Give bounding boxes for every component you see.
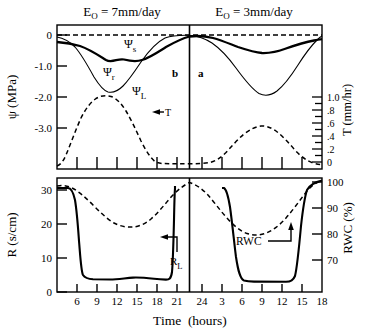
annotation-psi-s-sub: s <box>133 44 137 54</box>
xtick-4: 18 <box>152 295 164 307</box>
xtick-10: 12 <box>277 295 288 307</box>
title-right-E: E <box>215 4 223 19</box>
top-panel: 0 -1.0 -2.0 -3.0 ψ (MPa) 1.0 .8 .6 .4 .2… <box>4 25 354 169</box>
panel-label-b: b <box>172 67 178 79</box>
xtick-2: 12 <box>112 295 123 307</box>
annotation-psi-r-sub: r <box>112 72 115 82</box>
svg-text:EO = 3mm/day: EO = 3mm/day <box>215 4 293 21</box>
x-label-part1: Time <box>153 313 181 328</box>
xtick-8: 6 <box>239 295 245 307</box>
transpiration-axis-ticks <box>312 97 322 162</box>
x-axis-tick-labels: 6 9 12 15 18 21 24 3 6 9 12 15 18 <box>74 295 328 307</box>
t-tick-08: .8 <box>327 105 335 116</box>
xtick-0: 6 <box>74 295 80 307</box>
t-tick-1: 1.0 <box>327 92 340 103</box>
annotation-psi-r: Ψr <box>103 65 115 82</box>
panel-title-right: EO = 3mm/day <box>215 4 293 21</box>
title-left-rest: = 7mm/day <box>98 4 161 19</box>
rwc-axis-ticks <box>312 182 322 260</box>
rwc-tick-90: 90 <box>327 202 339 214</box>
rwc-axis-label: RWC (%) <box>340 202 355 254</box>
rwc-tick-80: 80 <box>327 228 339 240</box>
annotation-leaf-resistance: RL <box>160 234 183 270</box>
annotation-transpiration: T <box>152 107 171 118</box>
r-tick-10: 10 <box>41 252 53 264</box>
panel-title-left: EO = 7mm/day <box>83 4 161 21</box>
x-axis-label: Time (hours) <box>153 313 227 328</box>
t-tick-0: 0 <box>327 157 332 168</box>
xtick-1: 9 <box>94 295 100 307</box>
t-tick-02: .2 <box>327 144 335 155</box>
t-tick-06: .6 <box>327 118 335 129</box>
scientific-figure: EO = 7mm/day EO = 3mm/day 0 -1.0 -2.0 -3… <box>0 0 365 334</box>
resistance-axis-ticks <box>57 190 67 292</box>
r-tick-0: 0 <box>47 286 53 298</box>
resistance-axis-label: R (s/cm) <box>4 212 19 257</box>
xtick-7: 3 <box>219 295 225 307</box>
psi-axis-ticks <box>57 35 67 128</box>
x-label-part2: (hours) <box>188 313 227 328</box>
psi-axis-label: ψ (MPa) <box>4 75 19 120</box>
r-tick-30: 30 <box>41 184 53 196</box>
annotation-psi-L: ΨL <box>132 84 146 101</box>
annotation-rl-sub: L <box>177 261 182 271</box>
psi-tick-0: 0 <box>47 29 53 41</box>
annotation-t-label: T <box>165 107 171 118</box>
panel-label-a: a <box>198 67 204 79</box>
bottom-panel: 30 20 10 0 R (s/cm) 100 90 80 70 RWC (%) <box>4 176 355 298</box>
annotation-rwc-label: RWC <box>236 235 262 247</box>
svg-text:EO = 7mm/day: EO = 7mm/day <box>83 4 161 21</box>
psi-tick-3: -3.0 <box>35 122 53 134</box>
xtick-9: 9 <box>259 295 265 307</box>
title-right-rest: = 3mm/day <box>230 4 293 19</box>
svg-text:Time (hours): Time (hours) <box>153 313 227 328</box>
transpiration-axis-label: T (mm/hr) <box>340 84 354 136</box>
title-left-E: E <box>83 4 91 19</box>
figure-container: EO = 7mm/day EO = 3mm/day 0 -1.0 -2.0 -3… <box>0 0 365 334</box>
psi-tick-2: -2.0 <box>35 91 53 103</box>
psi-tick-1: -1.0 <box>35 60 53 72</box>
xtick-5: 21 <box>172 295 183 307</box>
rwc-tick-100: 100 <box>327 176 344 188</box>
r-tick-20: 20 <box>41 218 53 230</box>
xtick-11: 15 <box>297 295 309 307</box>
annotation-psi-s: Ψs <box>124 37 137 54</box>
xtick-12: 18 <box>317 295 329 307</box>
xtick-6: 24 <box>197 295 209 307</box>
rwc-tick-70: 70 <box>327 254 339 266</box>
t-tick-04: .4 <box>327 131 335 142</box>
annotation-psi-L-sub: L <box>141 91 147 101</box>
annotation-rwc: RWC <box>236 222 294 247</box>
xtick-3: 15 <box>132 295 144 307</box>
